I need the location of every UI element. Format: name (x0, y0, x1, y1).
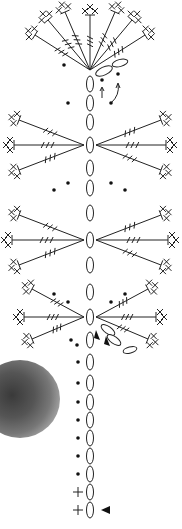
slip-stitch-dot (62, 63, 66, 67)
single-crochet-symbol (13, 314, 19, 320)
single-crochet-symbol (3, 142, 9, 148)
single-crochet-symbol (40, 11, 46, 17)
single-crochet-symbol (7, 147, 13, 153)
single-crochet-symbol (56, 7, 62, 13)
yarn-over-tick (125, 130, 126, 137)
single-crochet-symbol (14, 111, 20, 117)
single-crochet-symbol (169, 242, 175, 248)
single-crochet-symbol (173, 237, 179, 243)
chain-stitch-oval (87, 309, 94, 325)
single-crochet-symbol (171, 142, 177, 148)
slip-stitch-dot (76, 436, 80, 440)
stitch-top-bar (146, 285, 151, 294)
yarn-over-tick (120, 326, 125, 330)
chain-stitch-oval (87, 448, 94, 464)
slip-stitch-dot (123, 292, 127, 296)
chain-stitch-oval (87, 484, 94, 500)
single-crochet-symbol (23, 333, 29, 339)
single-crochet-symbol (169, 232, 175, 238)
yarn-over-tick (134, 127, 135, 134)
yarn-over-tick (54, 248, 55, 255)
chain-stitch-oval (87, 137, 94, 153)
stitch-top-bar (60, 10, 69, 14)
yarn-over-tick (114, 51, 115, 58)
slip-stitch-dot (76, 472, 80, 476)
stitch-spoke (19, 120, 84, 145)
slip-stitch-dot (52, 292, 56, 296)
stitch-top-bar (32, 31, 37, 39)
stitch-spoke (48, 20, 90, 70)
single-crochet-symbol (14, 173, 20, 179)
stitch-top-bar (128, 17, 136, 23)
single-crochet-symbol (22, 339, 28, 345)
stitch-spoke (90, 12, 115, 70)
single-crochet-symbol (39, 17, 45, 23)
stitch-spoke (96, 120, 161, 145)
yarn-over-tick (103, 33, 107, 38)
direction-triangle-icon (94, 330, 100, 340)
chain-stitch-oval (87, 180, 94, 196)
single-crochet-symbol (22, 282, 28, 288)
slip-stitch-dot (109, 181, 113, 185)
single-crochet-symbol (87, 4, 93, 10)
single-crochet-symbol (152, 282, 158, 288)
single-crochet-symbol (151, 289, 157, 295)
chain-stitch-oval (87, 114, 94, 130)
single-crochet-symbol (160, 173, 166, 179)
single-crochet-symbol (9, 265, 15, 271)
single-crochet-symbol (165, 114, 171, 120)
yarn-over-tick (101, 37, 105, 42)
yarn-over-tick (132, 157, 137, 162)
slip-stitch-dot (76, 400, 80, 404)
chain-stitch-oval (87, 354, 94, 370)
yarn-over-tick (45, 251, 46, 258)
stitch-spoke (32, 289, 84, 317)
yarn-over-tick (124, 328, 129, 332)
yarn-over-tick (127, 156, 132, 161)
single-crochet-symbol (92, 8, 98, 14)
slip-stitch-dot (66, 101, 70, 105)
yarn-over-tick (111, 41, 114, 47)
stitch-top-bar (44, 17, 52, 23)
single-crochet-symbol (23, 289, 29, 295)
stitch-spoke (96, 289, 148, 317)
single-crochet-symbol (109, 3, 115, 9)
chain-stitch-oval (87, 430, 94, 446)
single-crochet-symbol (1, 237, 7, 243)
stitch-spoke (32, 317, 84, 339)
yarn-over-tick (129, 129, 130, 136)
single-crochet-symbol (17, 309, 23, 315)
yarn-over-tick (132, 252, 137, 257)
slip-stitch-dot (116, 72, 120, 76)
single-crochet-symbol (149, 28, 155, 34)
slip-stitch-dot (69, 338, 73, 342)
slip-stitch-dot (100, 78, 104, 82)
single-crochet-symbol (157, 309, 163, 315)
chain-stitch-oval (87, 502, 94, 518)
slip-stitch-dot (109, 300, 113, 304)
single-crochet-symbol (143, 26, 149, 32)
slip-stitch-dot (66, 300, 70, 304)
yarn-over-tick (113, 37, 116, 43)
single-crochet-symbol (135, 17, 141, 23)
single-crochet-symbol (27, 342, 33, 348)
yarn-over-tick (99, 41, 103, 46)
stitch-spoke (19, 240, 84, 265)
chain-stitch-oval (87, 466, 94, 482)
single-crochet-symbol (59, 2, 65, 8)
single-crochet-symbol (165, 170, 171, 176)
stitch-spoke (19, 145, 84, 170)
single-crochet-symbol (9, 114, 15, 120)
slip-stitch-dot (76, 454, 80, 458)
yarn-over-tick (118, 48, 119, 55)
curved-arrow-icon (111, 83, 120, 103)
single-crochet-symbol (165, 209, 171, 215)
single-crochet-symbol (17, 319, 23, 325)
single-crochet-symbol (160, 111, 166, 117)
yarn-over-tick (108, 44, 111, 50)
stitch-top-bar (110, 10, 119, 14)
slip-stitch-dot (76, 381, 80, 385)
start-arrow-icon (101, 506, 110, 514)
single-crochet-symbol (118, 7, 124, 13)
single-crochet-symbol (160, 268, 166, 274)
